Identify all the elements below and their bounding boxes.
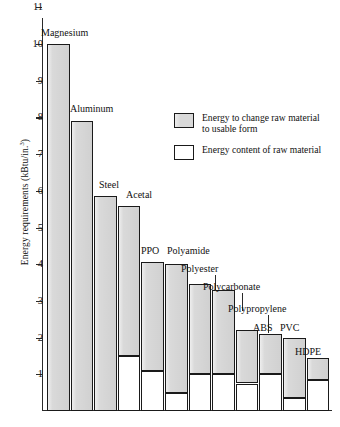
bar-label-steel: Steel: [99, 180, 119, 190]
bar-label-ppo: PPO: [141, 246, 159, 256]
legend-item-energy-to-change: Energy to change raw material to usable …: [174, 112, 338, 134]
legend-swatch-white-icon: [174, 145, 194, 160]
bar-segment-white: [236, 384, 259, 412]
bar-label-hdpe: HDPE: [295, 347, 321, 357]
bar-label-polycarbonate: Polycarbonate: [203, 282, 260, 292]
bar-segment-gray: [47, 44, 70, 411]
bar-segment-white: [259, 374, 282, 411]
bar-segment-white: [189, 374, 212, 411]
bar-segment-gray: [141, 262, 164, 370]
legend-label-energy-to-change: Energy to change raw material to usable …: [202, 112, 338, 134]
bar-segment-white: [141, 371, 164, 411]
legend-item-energy-content: Energy content of raw material: [174, 144, 338, 166]
bar-segment-gray: [236, 330, 259, 383]
bar-label-pvc: PVC: [280, 323, 299, 333]
bar-label-aluminum: Aluminum: [70, 104, 113, 114]
bar-segment-white: [212, 374, 235, 411]
plot-area: MagnesiumAluminumSteelAcetalPPOPolyamide…: [0, 0, 340, 427]
bar-label-magnesium: Magnesium: [41, 28, 88, 38]
bar-label-polypropylene: Polypropylene: [228, 304, 286, 314]
bar-label-acetal: Acetal: [126, 190, 152, 200]
energy-requirements-bar-chart: Energy requirements (kBtu/in.3) 12345678…: [0, 0, 340, 427]
bar-segment-gray: [307, 358, 330, 380]
legend: Energy to change raw material to usable …: [174, 112, 338, 176]
bar-label-abs: ABS: [253, 323, 272, 333]
bar-segment-white: [118, 356, 141, 411]
legend-label-line1: Energy content of raw material: [202, 144, 321, 155]
bar-label-polyester: Polyester: [181, 264, 218, 274]
legend-label-line1: Energy to change raw material: [202, 112, 320, 123]
bar-label-polyamide: Polyamide: [167, 246, 210, 256]
bar-segment-gray: [189, 284, 212, 374]
bar-segment-gray: [259, 334, 282, 374]
bar-segment-gray: [94, 196, 117, 411]
legend-label-line2: to usable form: [202, 123, 257, 134]
bar-segment-gray: [71, 121, 94, 411]
bar-segment-gray: [165, 264, 188, 392]
legend-label-energy-content: Energy content of raw material: [202, 144, 338, 155]
bar-segment-white: [283, 398, 306, 411]
bar-segment-gray: [118, 206, 141, 357]
legend-swatch-gray-icon: [174, 113, 194, 128]
bar-segment-white: [165, 393, 188, 411]
bar-segment-white: [307, 380, 330, 411]
